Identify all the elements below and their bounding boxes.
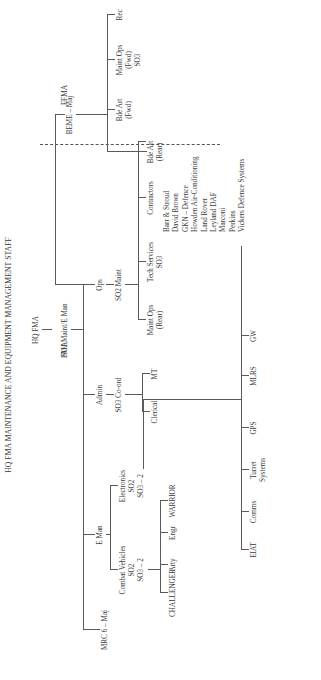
connector — [160, 592, 168, 593]
connector — [125, 394, 142, 395]
maint-ops-fwd-node: Maint Ops (Fwd) SO3 — [116, 45, 143, 76]
connector — [125, 284, 138, 285]
bde-art-rear-node: Bde Art (Rear) — [147, 141, 165, 164]
warrior-node: WARRIOR — [169, 484, 178, 517]
beme-node: BEME – Maj — [66, 96, 75, 135]
contractor-item: Barr & Stroud — [163, 156, 172, 232]
connector — [241, 375, 249, 376]
engr-node: Engr — [169, 526, 178, 540]
bde-art-fwd-node: Bde Art (Fwd) — [116, 99, 134, 122]
connector — [138, 197, 146, 198]
rec-node: Rec — [116, 9, 125, 20]
e-man-node: E Man — [96, 525, 105, 544]
connector — [110, 485, 118, 486]
connector — [107, 59, 115, 60]
connector — [138, 319, 146, 320]
connector — [55, 284, 83, 285]
connector — [241, 427, 249, 428]
connector — [138, 261, 146, 262]
electronics-bar — [241, 246, 242, 550]
ops-node: Ops — [96, 279, 105, 291]
connector — [241, 511, 249, 512]
gw-node: GW — [250, 330, 259, 342]
connector — [160, 500, 168, 501]
electronics-node: Electronics SO2 SO3 – 2 — [119, 470, 146, 502]
connector — [142, 373, 150, 374]
connector — [83, 629, 100, 630]
connector — [83, 534, 95, 535]
connector — [241, 549, 249, 550]
connector — [142, 411, 150, 412]
contractor-item: Marconi — [219, 156, 228, 232]
connector — [106, 394, 114, 395]
gps-node: GPS — [250, 421, 259, 434]
eiat-node: EIAT — [250, 542, 259, 558]
chart-title: HQ FMA MAINTENANCE AND EQUIPMENT MANAGEM… — [4, 237, 13, 473]
maint-ops-rear-node: Maint Ops (Rear) — [147, 305, 165, 336]
contractor-item: Perkins — [229, 156, 238, 232]
arty-node: Arty — [169, 558, 178, 571]
connector — [107, 14, 115, 15]
contractors-node: Contractors — [147, 181, 156, 215]
connector — [241, 335, 249, 336]
connector — [160, 564, 168, 565]
clerical-node: Clerical — [151, 401, 160, 424]
hq-fma-node: HQ FMA — [32, 316, 41, 344]
contractor-item: Leyland DAF — [210, 156, 219, 232]
contractor-item: Vickers Defence Systems — [238, 156, 247, 232]
connector — [138, 141, 146, 142]
contractor-item: GKN – Defence — [182, 156, 191, 232]
connector — [42, 329, 52, 330]
beme-link — [55, 115, 56, 285]
connector — [110, 569, 118, 570]
org-chart: HQ FMA MAINTENANCE AND EQUIPMENT MANAGEM… — [0, 0, 321, 680]
so3-coord-node: SO3 Co-ord — [115, 378, 124, 413]
mt-node: MT — [151, 369, 160, 380]
mlrs-node: MLRS — [250, 366, 259, 386]
connector — [106, 284, 114, 285]
connector — [241, 469, 249, 470]
so2-maint-node: SO2 Maint — [115, 269, 124, 301]
connector — [148, 569, 160, 570]
mrc-node: MRC 6 – Maj — [101, 610, 110, 650]
so1-maint-node: SO1 Maint/E Man — [61, 303, 70, 356]
connector — [160, 532, 168, 533]
e-man-bar — [110, 486, 111, 570]
admin-node: Admin — [96, 385, 105, 405]
contractor-item: David Brown — [172, 156, 181, 232]
ops-bar — [138, 142, 139, 320]
main-trunk — [83, 285, 84, 630]
combat-vehicles-node: Combat Vehicles SO2 SO3 – 2 — [119, 546, 146, 595]
connector — [107, 151, 147, 152]
admin-bar — [142, 374, 143, 412]
connector — [83, 394, 95, 395]
tech-services-node: Tech Services SO3 — [147, 242, 165, 282]
contractor-item: Howden Air-Conditioning — [191, 156, 200, 232]
connector — [83, 284, 95, 285]
challenger-node: CHALLENGER — [169, 569, 178, 617]
connector — [55, 114, 65, 115]
connector — [71, 329, 83, 330]
comms-node: Comms — [250, 501, 259, 523]
turret-systems-node: Turret Systems — [250, 458, 268, 482]
contractor-item: Land Rover — [201, 156, 210, 232]
combat-vehicles-bar — [160, 501, 161, 593]
beme-bar — [107, 15, 108, 152]
connector — [107, 109, 115, 110]
connector — [76, 114, 107, 115]
fma-ffma-divider — [40, 144, 220, 145]
contractors-list: Barr & Stroud David Brown GKN – Defence … — [163, 156, 248, 232]
